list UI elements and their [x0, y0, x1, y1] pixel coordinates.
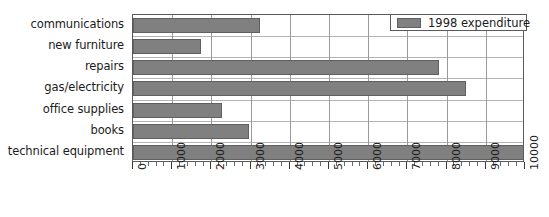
bar [133, 103, 222, 118]
x-tick-minor [273, 162, 274, 166]
chart-legend: 1998 expenditure [390, 14, 527, 31]
x-tick-major [289, 162, 290, 169]
x-tick-major [250, 162, 251, 169]
category-label: office supplies [43, 99, 124, 120]
x-tick-minor [399, 162, 400, 166]
x-tick-minor [352, 162, 353, 166]
x-tick-label: 1000 [175, 142, 188, 170]
x-tick-minor [438, 162, 439, 166]
category-label: gas/electricity [44, 77, 124, 98]
x-tick-minor [156, 162, 157, 166]
x-tick-minor [469, 162, 470, 166]
x-tick-minor [234, 162, 235, 166]
x-tick-major [328, 162, 329, 169]
x-tick-label: 9000 [489, 142, 502, 170]
bar-chart: communicationsnew furniturerepairsgas/el… [0, 0, 549, 217]
bar [133, 39, 201, 54]
bar-row [133, 36, 524, 57]
legend-label-1998-expenditure: 1998 expenditure [428, 16, 530, 30]
x-tick-major [171, 162, 172, 169]
x-tick-label: 2000 [214, 142, 227, 170]
x-tick-minor [359, 162, 360, 166]
bar [133, 60, 439, 75]
x-tick-label: 10000 [528, 135, 541, 170]
x-tick-minor [477, 162, 478, 166]
x-tick-minor [320, 162, 321, 166]
category-label: communications [30, 14, 124, 35]
bar-row [133, 57, 524, 78]
category-label: books [90, 120, 124, 141]
x-axis-tick-labels: 0100020003000400050006000700080009000100… [132, 170, 524, 217]
bar [133, 18, 260, 33]
bar [133, 145, 524, 160]
x-tick-label: 7000 [410, 142, 423, 170]
x-tick-minor [312, 162, 313, 166]
bar [133, 124, 249, 139]
x-tick-label: 5000 [332, 142, 345, 170]
x-tick-major [524, 162, 525, 169]
bar-row [133, 121, 524, 142]
x-tick-major [446, 162, 447, 169]
x-tick-major [132, 162, 133, 169]
category-label: repairs [85, 56, 124, 77]
x-tick-major [367, 162, 368, 169]
bar-row [133, 142, 524, 162]
x-tick-minor [203, 162, 204, 166]
x-tick-label: 6000 [371, 142, 384, 170]
x-tick-label: 0 [136, 163, 149, 170]
x-tick-minor [281, 162, 282, 166]
category-label: new furniture [48, 35, 124, 56]
x-tick-minor [163, 162, 164, 166]
x-tick-label: 8000 [450, 142, 463, 170]
bar-row [133, 100, 524, 121]
x-tick-major [485, 162, 486, 169]
bar-row [133, 78, 524, 99]
x-tick-label: 4000 [293, 142, 306, 170]
category-axis: communicationsnew furniturerepairsgas/el… [0, 14, 128, 162]
x-tick-label: 3000 [254, 142, 267, 170]
x-tick-minor [508, 162, 509, 166]
x-tick-minor [430, 162, 431, 166]
category-label: technical equipment [8, 141, 124, 162]
x-tick-minor [195, 162, 196, 166]
legend-swatch-1998-expenditure [397, 18, 421, 28]
x-tick-major [210, 162, 211, 169]
x-axis-ticks [132, 162, 524, 170]
x-tick-major [406, 162, 407, 169]
x-tick-minor [391, 162, 392, 166]
x-tick-minor [242, 162, 243, 166]
bar [133, 81, 466, 96]
plot-area [132, 14, 524, 162]
x-tick-minor [516, 162, 517, 166]
